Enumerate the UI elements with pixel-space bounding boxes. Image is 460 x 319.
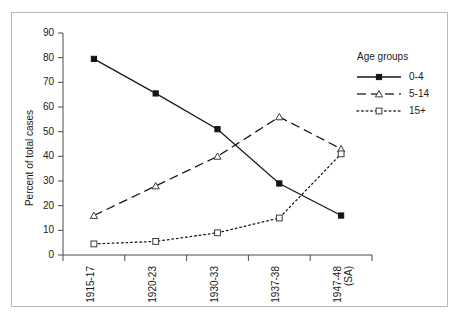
y-tick-label: 90 — [43, 27, 55, 38]
series-15+ — [91, 151, 344, 247]
x-axis-ticks: 1915-171920-231930-331937-381947-48(SA) — [63, 255, 372, 303]
y-tick-label: 40 — [43, 150, 55, 161]
chart-figure: Percent of total cases 01020304050607080… — [0, 0, 460, 319]
line-chart: Percent of total cases 01020304050607080… — [0, 0, 460, 319]
data-point-15+-1920-23 — [153, 239, 159, 245]
legend-item-15+[interactable]: 15+ — [357, 105, 426, 116]
data-point-0-4-1947-48 — [339, 213, 344, 218]
series-layer — [90, 56, 344, 247]
y-tick-label: 30 — [43, 175, 55, 186]
y-tick-label: 70 — [43, 76, 55, 87]
data-point-0-4-1920-23 — [153, 91, 158, 96]
y-tick-label: 0 — [48, 249, 54, 260]
legend-label-15+: 15+ — [409, 105, 426, 116]
data-point-15+-1947-48 — [338, 151, 344, 157]
legend-marker-0-4 — [376, 74, 381, 79]
y-tick-label: 80 — [43, 52, 55, 63]
y-tick-label: 10 — [43, 224, 55, 235]
data-point-5-14-1920-23 — [152, 183, 159, 189]
data-point-15+-1937-38 — [276, 215, 282, 221]
x-tick-label: 1920-23 — [147, 266, 158, 303]
data-point-0-4-1915-17 — [91, 56, 96, 61]
y-tick-label: 60 — [43, 101, 55, 112]
y-tick-label: 20 — [43, 200, 55, 211]
chart-legend: Age groups0-45-1415+ — [357, 51, 429, 116]
x-tick-label: 1915-17 — [85, 266, 96, 303]
y-tick-label: 50 — [43, 126, 55, 137]
x-tick-label: 1947-48(SA) — [332, 266, 354, 303]
legend-item-5-14[interactable]: 5-14 — [357, 88, 429, 99]
data-point-0-4-1930-33 — [215, 127, 220, 132]
x-tick-label: 1930-33 — [209, 266, 220, 303]
data-point-15+-1930-33 — [215, 230, 221, 236]
legend-marker-15+ — [376, 108, 382, 114]
series-line-0-4 — [94, 59, 341, 216]
data-point-5-14-1930-33 — [214, 153, 221, 159]
data-point-15+-1915-17 — [91, 241, 97, 247]
legend-title: Age groups — [357, 51, 408, 62]
data-point-0-4-1937-38 — [277, 181, 282, 186]
data-point-5-14-1915-17 — [90, 212, 97, 218]
y-axis-title: Percent of total cases — [24, 110, 35, 206]
x-tick-label: 1937-38 — [270, 266, 281, 303]
legend-item-0-4[interactable]: 0-4 — [357, 71, 424, 82]
series-0-4 — [91, 56, 343, 218]
y-axis-ticks: 0102030405060708090 — [43, 27, 63, 260]
data-point-5-14-1937-38 — [276, 113, 283, 119]
legend-label-5-14: 5-14 — [409, 88, 429, 99]
legend-label-0-4: 0-4 — [409, 71, 424, 82]
